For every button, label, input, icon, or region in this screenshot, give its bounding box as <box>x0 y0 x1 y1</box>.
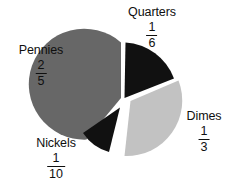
fraction-denominator: 3 <box>198 140 209 154</box>
slice-label-dimes-fraction: 1 3 <box>198 125 209 153</box>
fraction-numerator: 1 <box>47 152 65 166</box>
slice-label-quarters-name: Quarters <box>128 6 176 19</box>
slice-label-quarters: Quarters 1 6 <box>128 6 176 50</box>
fraction-denominator: 10 <box>47 167 65 181</box>
slice-label-dimes-name: Dimes <box>187 110 222 123</box>
slice-label-pennies: Pennies 2 5 <box>19 44 63 88</box>
slice-label-quarters-fraction: 1 6 <box>146 21 157 49</box>
slice-label-nickels-name: Nickels <box>36 137 76 150</box>
fraction-numerator: 2 <box>35 59 46 73</box>
pie-chart-figure: Quarters 1 6 Pennies 2 5 Dimes 1 3 Nicke… <box>0 0 236 187</box>
slice-label-pennies-name: Pennies <box>19 44 63 57</box>
slice-label-nickels-fraction: 1 10 <box>47 152 65 180</box>
slice-label-nickels: Nickels 1 10 <box>36 137 76 181</box>
fraction-denominator: 5 <box>35 74 46 88</box>
slice-label-pennies-fraction: 2 5 <box>35 59 46 87</box>
fraction-denominator: 6 <box>146 36 157 50</box>
fraction-numerator: 1 <box>198 125 209 139</box>
fraction-numerator: 1 <box>146 21 157 35</box>
slice-label-dimes: Dimes 1 3 <box>187 110 222 154</box>
